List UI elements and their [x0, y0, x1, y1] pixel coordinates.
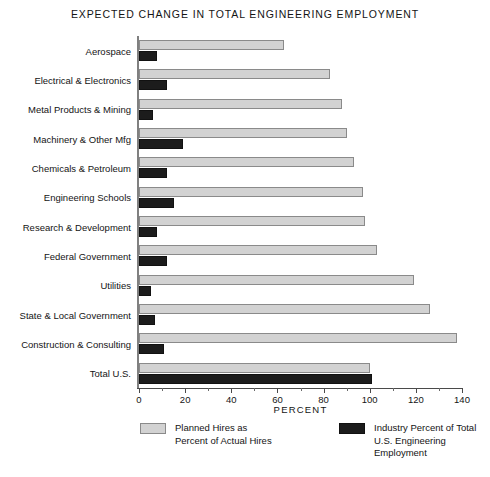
x-axis-title: PERCENT	[139, 404, 462, 415]
category-row: Total U.S.	[139, 359, 462, 388]
bar-industry-percent	[139, 168, 167, 178]
bar-industry-percent	[139, 286, 151, 296]
category-row: Research & Development	[139, 212, 462, 241]
chart-legend: Planned Hires as Percent of Actual Hires…	[140, 422, 480, 474]
x-tick-major	[416, 388, 417, 393]
x-tick-major	[185, 388, 186, 393]
category-label: State & Local Government	[20, 309, 131, 320]
bar-planned-hires	[139, 216, 365, 226]
category-row: Metal Products & Mining	[139, 95, 462, 124]
x-tick-major	[324, 388, 325, 393]
chart-title: EXPECTED CHANGE IN TOTAL ENGINEERING EMP…	[0, 8, 490, 20]
category-row: Construction & Consulting	[139, 329, 462, 358]
category-label: Machinery & Other Mfg	[33, 133, 131, 144]
bar-planned-hires	[139, 40, 284, 50]
category-label: Aerospace	[86, 45, 131, 56]
legend-swatch-light-gray	[140, 423, 166, 434]
bar-planned-hires	[139, 157, 354, 167]
category-row: State & Local Government	[139, 300, 462, 329]
legend-entry-planned-hires: Planned Hires as Percent of Actual Hires	[140, 422, 272, 447]
bar-industry-percent	[139, 227, 157, 237]
legend-entry-industry-percent: Industry Percent of Total U.S. Engineeri…	[339, 422, 476, 460]
bar-planned-hires	[139, 69, 330, 79]
x-tick-minor	[393, 388, 394, 391]
bar-industry-percent	[139, 110, 153, 120]
x-tick-major	[370, 388, 371, 393]
bar-industry-percent	[139, 374, 372, 384]
bar-planned-hires	[139, 363, 370, 373]
x-tick-minor	[162, 388, 163, 391]
category-label: Federal Government	[44, 250, 131, 261]
category-row: Aerospace	[139, 36, 462, 65]
bar-industry-percent	[139, 51, 157, 61]
bar-planned-hires	[139, 128, 347, 138]
bar-industry-percent	[139, 344, 164, 354]
x-tick-major	[277, 388, 278, 393]
bar-planned-hires	[139, 99, 342, 109]
bar-industry-percent	[139, 139, 183, 149]
x-tick-minor	[254, 388, 255, 391]
x-tick-minor	[439, 388, 440, 391]
bar-planned-hires	[139, 304, 430, 314]
category-label: Electrical & Electronics	[34, 74, 131, 85]
category-label: Research & Development	[23, 221, 131, 232]
legend-swatch-black	[339, 423, 365, 434]
category-label: Total U.S.	[90, 368, 131, 379]
category-row: Federal Government	[139, 241, 462, 270]
bar-planned-hires	[139, 245, 377, 255]
category-label: Utilities	[100, 280, 131, 291]
bar-industry-percent	[139, 315, 155, 325]
category-row: Engineering Schools	[139, 183, 462, 212]
x-tick-minor	[208, 388, 209, 391]
bar-industry-percent	[139, 80, 167, 90]
bar-planned-hires	[139, 333, 457, 343]
legend-label: Industry Percent of Total U.S. Engineeri…	[374, 422, 476, 460]
category-row: Electrical & Electronics	[139, 65, 462, 94]
x-tick-major	[231, 388, 232, 393]
bar-industry-percent	[139, 198, 174, 208]
x-tick-minor	[347, 388, 348, 391]
category-row: Chemicals & Petroleum	[139, 153, 462, 182]
category-label: Chemicals & Petroleum	[32, 162, 131, 173]
legend-label: Planned Hires as Percent of Actual Hires	[175, 422, 272, 447]
category-label: Construction & Consulting	[21, 338, 131, 349]
category-label: Engineering Schools	[44, 192, 131, 203]
bar-industry-percent	[139, 256, 167, 266]
bar-planned-hires	[139, 275, 414, 285]
category-row: Machinery & Other Mfg	[139, 124, 462, 153]
category-label: Metal Products & Mining	[28, 104, 131, 115]
category-row: Utilities	[139, 271, 462, 300]
x-tick-major	[462, 388, 463, 393]
x-tick-minor	[301, 388, 302, 391]
plot-area: AerospaceElectrical & ElectronicsMetal P…	[139, 36, 462, 388]
bar-planned-hires	[139, 187, 363, 197]
x-tick-major	[139, 388, 140, 393]
chart-container: EXPECTED CHANGE IN TOTAL ENGINEERING EMP…	[0, 0, 490, 477]
